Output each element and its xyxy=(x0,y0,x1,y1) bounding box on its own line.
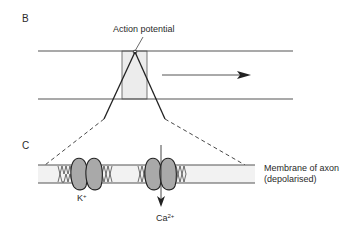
diagram-canvas xyxy=(0,0,358,237)
calcium-symbol: Ca xyxy=(156,213,168,223)
action-potential-label: Action potential xyxy=(113,24,175,35)
propagation-arrow-icon xyxy=(162,71,251,79)
calcium-charge: 2+ xyxy=(168,213,175,219)
potassium-channel-icon xyxy=(71,158,103,190)
calcium-ion-label: Ca2+ xyxy=(156,213,174,224)
membrane-label: Membrane of axon (depolarised) xyxy=(264,163,339,185)
panel-label-c: C xyxy=(22,140,29,151)
membrane-label-line2: (depolarised) xyxy=(264,174,339,185)
depolarised-region-box xyxy=(122,51,147,99)
potassium-charge: + xyxy=(83,193,87,199)
membrane-label-line1: Membrane of axon xyxy=(264,163,339,174)
zoom-dashed-right xyxy=(165,119,245,165)
panel-label-b: B xyxy=(22,13,29,24)
potassium-ion-label: K+ xyxy=(77,193,87,204)
action-potential-pointer xyxy=(135,37,143,51)
